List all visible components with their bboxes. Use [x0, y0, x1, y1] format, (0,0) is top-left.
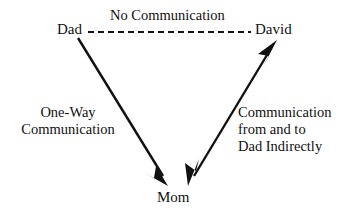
edge-label-indirect-line2: from and to: [238, 121, 331, 138]
node-david: David: [255, 21, 292, 37]
arrowhead-to-mom-from-dad-icon: [143, 166, 168, 186]
node-mom: Mom: [157, 189, 190, 205]
edge-label-one-way-line2: Communication: [18, 121, 118, 138]
edge-label-indirect-line3: Dad Indirectly: [238, 138, 331, 155]
edge-label-indirect-communication: Communication from and to Dad Indirectly: [238, 104, 331, 155]
node-dad: Dad: [57, 21, 82, 37]
communication-diagram: Dad David Mom No Communication One-Way C…: [0, 0, 347, 219]
edge-label-no-communication: No Communication: [110, 7, 225, 24]
edge-label-one-way-line1: One-Way: [18, 104, 118, 121]
edge-label-one-way-communication: One-Way Communication: [18, 104, 118, 138]
edge-label-indirect-line1: Communication: [238, 104, 331, 121]
